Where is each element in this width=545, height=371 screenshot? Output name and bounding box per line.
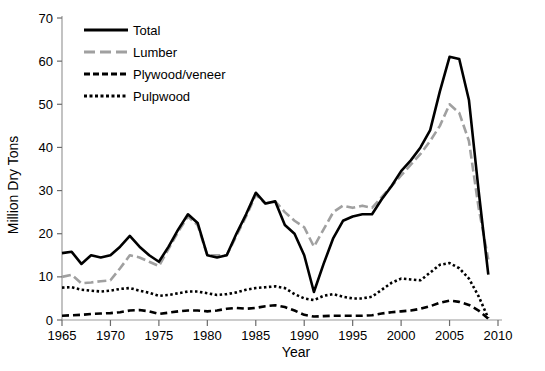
y-axis-tick-label: 50 bbox=[39, 97, 53, 112]
x-axis-tick-label: 1995 bbox=[338, 328, 367, 343]
y-axis-tick-label: 10 bbox=[39, 269, 53, 284]
line-chart: 010203040506070 196519701975198019851990… bbox=[0, 0, 545, 371]
y-axis-tick-label: 0 bbox=[46, 313, 53, 328]
y-axis-title: Million Dry Tons bbox=[5, 136, 21, 235]
x-axis-tick-label: 1980 bbox=[193, 328, 222, 343]
y-axis-tick-label: 70 bbox=[39, 11, 53, 26]
legend-label-lumber: Lumber bbox=[133, 45, 178, 60]
y-axis-tick-label: 30 bbox=[39, 183, 53, 198]
y-axis-tick-label: 20 bbox=[39, 226, 53, 241]
x-axis-tick-label: 1965 bbox=[48, 328, 77, 343]
y-axis-tick-label: 40 bbox=[39, 140, 53, 155]
x-axis-tick-label: 1990 bbox=[290, 328, 319, 343]
x-axis-title: Year bbox=[282, 344, 311, 360]
x-axis-tick-label: 2000 bbox=[387, 328, 416, 343]
x-axis-tick-label: 1970 bbox=[96, 328, 125, 343]
x-axis-tick-label: 1985 bbox=[241, 328, 270, 343]
legend-label-pulpwood: Pulpwood bbox=[133, 89, 190, 104]
chart-background bbox=[0, 0, 545, 371]
legend-label-total: Total bbox=[133, 23, 161, 38]
x-axis-tick-label: 1975 bbox=[144, 328, 173, 343]
legend-label-plywood-veneer: Plywood/veneer bbox=[133, 67, 226, 82]
y-axis-tick-label: 60 bbox=[39, 54, 53, 69]
chart-container: 010203040506070 196519701975198019851990… bbox=[0, 0, 545, 371]
x-axis-tick-label: 2010 bbox=[484, 328, 513, 343]
x-axis-tick-label: 2005 bbox=[435, 328, 464, 343]
